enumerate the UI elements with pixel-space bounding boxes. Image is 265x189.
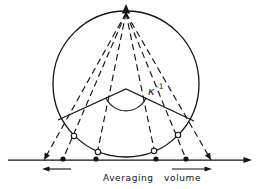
circle-intersection-2	[95, 149, 100, 154]
circle-intersection-4	[175, 132, 180, 137]
kappa-label: κ	[148, 85, 155, 98]
extent-arrow-left	[42, 167, 71, 172]
circle-intersection-3	[151, 148, 156, 153]
angle-arc	[106, 98, 146, 111]
apex-arrow-icon	[122, 4, 130, 14]
extent-arrow-left-head-icon	[42, 167, 50, 172]
averaging-volume-diagram: κ -1 Averaging volume	[0, 0, 265, 189]
axis-dot-2	[93, 156, 98, 161]
axis-dot-1	[60, 156, 65, 161]
ray-arrowhead-right-icon	[205, 152, 211, 160]
dashed-ray-6	[126, 13, 211, 160]
figure-canvas: κ -1 Averaging volume	[0, 0, 265, 189]
extent-arrow-right	[172, 167, 212, 172]
circle-intersection-group	[71, 132, 180, 154]
axis-label: Averaging volume	[103, 173, 201, 183]
dashed-ray-1	[44, 13, 126, 160]
axis-dot-3	[153, 156, 158, 161]
circle-intersection-1	[71, 133, 76, 138]
axis-dot-4	[183, 156, 188, 161]
kappa-exponent: -1	[156, 82, 164, 91]
dashed-ray-fan	[44, 13, 211, 160]
axis-arrowhead-icon	[244, 157, 253, 163]
extent-arrow-right-head-icon	[205, 167, 213, 172]
dashed-ray-3	[96, 13, 126, 159]
cone-lines	[58, 89, 194, 121]
